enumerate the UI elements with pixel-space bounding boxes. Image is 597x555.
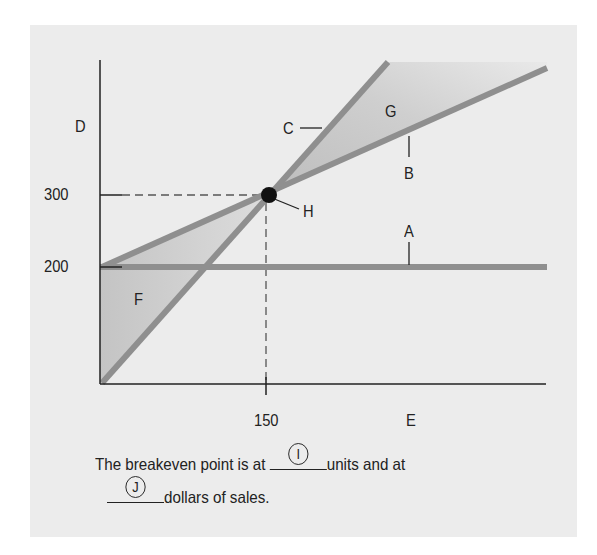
line-b [102,68,547,267]
circled-label-j: J [125,476,145,498]
line-a-label: A [404,224,414,240]
caption-text-2: units and at [327,455,405,473]
x-axis-label: E [406,413,416,429]
y-axis-label: D [75,119,86,135]
line-b-label: B [404,166,414,182]
circled-label-i: I [288,443,308,465]
point-h-label: H [303,204,314,220]
caption-line-2: Jdollars of sales. [107,486,270,506]
caption-text-3: dollars of sales. [164,488,269,506]
leader-h [272,198,299,209]
region-g-label: G [385,104,396,120]
blank-j: J [107,486,164,503]
x-tick-label-150: 150 [254,413,279,429]
y-tick-label-200: 200 [44,259,69,275]
region-f-label: F [134,292,143,308]
caption-line-1: The breakeven point is at Iunits and at [95,453,405,473]
breakeven-point-h [261,187,277,203]
line-c-label: C [283,121,294,137]
line-c [102,62,388,383]
blank-i: I [270,453,327,470]
caption-text-1: The breakeven point is at [95,455,270,473]
y-tick-label-300: 300 [44,187,69,203]
